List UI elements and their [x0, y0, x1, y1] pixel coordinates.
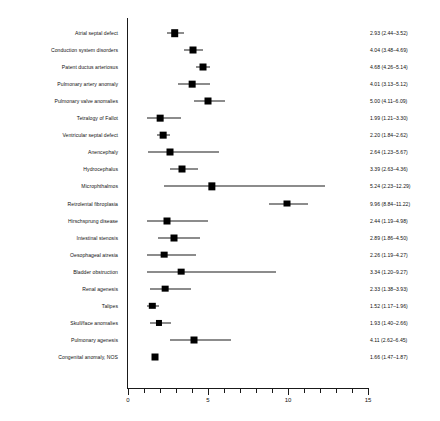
x-axis-line: [127, 388, 369, 389]
row-value: 2.44 (1.19–4.98): [370, 218, 408, 224]
row-value: 4.01 (3.13–5.12): [370, 81, 408, 87]
point-estimate-marker: [149, 303, 155, 309]
point-estimate-marker: [171, 29, 179, 37]
x-axis-minor-tick: [144, 389, 145, 393]
x-axis-major-tick: [208, 389, 209, 395]
row-value: 2.64 (1.23–5.67): [370, 149, 408, 155]
x-axis-minor-tick: [352, 389, 353, 393]
row-value: 5.24 (2.23–12.29): [370, 183, 411, 189]
point-estimate-marker: [160, 132, 167, 139]
row-value: 1.66 (1.47–1.87): [370, 354, 408, 360]
confidence-interval-line: [150, 288, 191, 289]
x-axis-major-tick: [128, 389, 129, 395]
point-estimate-marker: [179, 166, 186, 173]
confidence-interval-line: [170, 339, 231, 340]
row-value: 1.93 (1.40–2.66): [370, 320, 408, 326]
confidence-interval-line: [147, 118, 180, 119]
point-estimate-marker: [178, 268, 185, 275]
row-value: 4.68 (4.26–5.14): [370, 64, 408, 70]
point-estimate-marker: [284, 200, 291, 207]
row-value: 2.33 (1.38–3.93): [370, 286, 408, 292]
row-value: 5.00 (4.11–6.09): [370, 98, 407, 104]
confidence-interval-line: [147, 271, 276, 272]
row-value: 2.93 (2.44–3.52): [370, 30, 408, 36]
x-axis-tick-label: 10: [285, 396, 292, 404]
row-value: 4.11 (2.62–6.45): [370, 337, 407, 343]
x-axis-minor-tick: [176, 389, 177, 393]
confidence-interval-line: [164, 186, 325, 187]
point-estimate-marker: [199, 64, 206, 71]
x-axis-minor-tick: [224, 389, 225, 393]
point-estimate-marker: [205, 98, 212, 105]
row-value: 1.99 (1.21–3.30): [370, 115, 408, 121]
confidence-interval-line: [158, 237, 200, 238]
y-axis-line: [127, 18, 128, 389]
forest-plot: Atrial septal defectConduction system di…: [0, 0, 440, 421]
point-estimate-marker: [208, 183, 215, 190]
row-value: 2.20 (1.84–2.62): [370, 132, 408, 138]
x-axis-major-tick: [288, 389, 289, 395]
x-axis-minor-tick: [320, 389, 321, 393]
x-axis-minor-tick: [304, 389, 305, 393]
row-value: 1.52 (1.17–1.96): [370, 303, 408, 309]
point-estimate-marker: [189, 81, 196, 88]
point-estimate-marker: [190, 336, 197, 343]
point-estimate-marker: [164, 217, 171, 224]
point-estimate-marker: [156, 320, 162, 326]
x-axis-minor-tick: [336, 389, 337, 393]
confidence-interval-line: [148, 152, 219, 153]
x-axis-minor-tick: [240, 389, 241, 393]
point-estimate-marker: [151, 353, 158, 360]
row-value: 2.89 (1.86–4.50): [370, 235, 408, 241]
row-value: 4.04 (3.48–4.69): [370, 47, 408, 53]
point-estimate-marker: [162, 285, 169, 292]
point-estimate-marker: [189, 47, 196, 54]
row-value: 3.39 (2.63–4.36): [370, 166, 408, 172]
x-axis-tick-label: 0: [126, 396, 129, 404]
point-estimate-marker: [171, 234, 178, 241]
row-value: 9.96 (8.84–11.22): [370, 201, 410, 207]
x-axis-minor-tick: [160, 389, 161, 393]
point-estimate-marker: [156, 115, 163, 122]
confidence-interval-line: [147, 220, 208, 221]
point-estimate-marker: [167, 149, 174, 156]
x-axis-minor-tick: [256, 389, 257, 393]
x-axis-minor-tick: [272, 389, 273, 393]
row-value: 2.26 (1.19–4.27): [370, 252, 408, 258]
confidence-interval-line: [147, 254, 196, 255]
row-value: 3.34 (1.20–9.27): [370, 269, 408, 275]
point-estimate-marker: [161, 251, 168, 258]
x-axis-tick-label: 5: [206, 396, 209, 404]
x-axis-minor-tick: [192, 389, 193, 393]
effect-value-column: 2.93 (2.44–3.52)4.04 (3.48–4.69)4.68 (4.…: [368, 0, 440, 421]
